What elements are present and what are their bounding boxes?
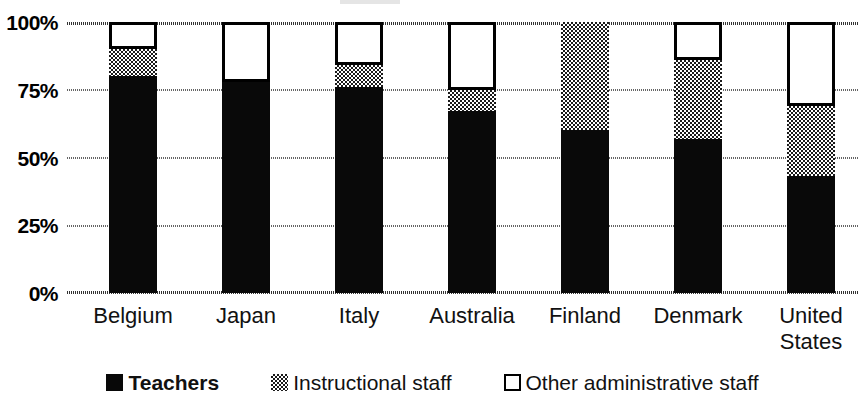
legend-item-other-administrative-staff: Other administrative staff <box>504 372 759 393</box>
legend-label-instructional-staff: Instructional staff <box>293 372 451 393</box>
bar-segment-other-administrative-staff-australia <box>448 22 496 90</box>
x-axis-label-line: Denmark <box>633 303 763 329</box>
bar-group-united-states <box>787 22 835 293</box>
bar-group-belgium <box>109 22 157 293</box>
x-axis-label-japan: Japan <box>181 303 311 329</box>
x-axis-label-finland: Finland <box>520 303 650 329</box>
bar-segment-instructional-staff-united-states <box>787 106 835 176</box>
bar-segment-other-administrative-staff-italy <box>335 22 383 65</box>
y-tick-label-75: 75% <box>17 80 58 101</box>
y-axis: 100% 75% 50% 25% 0% <box>0 0 66 310</box>
bar-segment-other-administrative-staff-denmark <box>674 22 722 60</box>
bar-segment-teachers-belgium <box>109 76 157 293</box>
solid-black-square-icon <box>106 374 123 391</box>
legend-label-teachers: Teachers <box>128 372 219 393</box>
x-axis-label-australia: Australia <box>407 303 537 329</box>
plot-area <box>67 22 858 293</box>
bar-segment-teachers-italy <box>335 87 383 293</box>
bar-group-australia <box>448 22 496 293</box>
bar-segment-other-administrative-staff-united-states <box>787 22 835 106</box>
bar-segment-instructional-staff-italy <box>335 65 383 87</box>
bar-segment-teachers-finland <box>561 130 609 293</box>
y-tick-label-25: 25% <box>17 215 58 236</box>
bars-container <box>67 22 858 293</box>
x-axis-label-belgium: Belgium <box>68 303 198 329</box>
bar-segment-instructional-staff-australia <box>448 90 496 112</box>
bar-segment-teachers-australia <box>448 111 496 293</box>
bar-group-denmark <box>674 22 722 293</box>
x-axis-label-line: Australia <box>407 303 537 329</box>
x-axis: BelgiumJapanItalyAustraliaFinlandDenmark… <box>67 303 858 363</box>
legend-label-other-administrative-staff: Other administrative staff <box>526 372 759 393</box>
scan-artifact <box>340 0 400 4</box>
stacked-bar-chart: 100% 75% 50% 25% 0% BelgiumJapanItalyAus… <box>0 0 865 399</box>
bar-segment-other-administrative-staff-japan <box>222 22 270 82</box>
bar-segment-instructional-staff-belgium <box>109 49 157 76</box>
bar-segment-teachers-japan <box>222 82 270 293</box>
bar-group-japan <box>222 22 270 293</box>
x-axis-label-line: Japan <box>181 303 311 329</box>
bar-segment-teachers-denmark <box>674 139 722 293</box>
bar-group-italy <box>335 22 383 293</box>
x-axis-label-line: Belgium <box>68 303 198 329</box>
y-tick-label-100: 100% <box>6 12 58 33</box>
bar-segment-teachers-united-states <box>787 176 835 293</box>
white-outlined-square-icon <box>504 374 521 391</box>
x-axis-label-line: United <box>746 303 865 329</box>
y-tick-label-0: 0% <box>29 283 58 304</box>
chart-legend: Teachers Instructional staff Other admin… <box>0 366 865 399</box>
x-axis-label-denmark: Denmark <box>633 303 763 329</box>
x-axis-label-line: Italy <box>294 303 424 329</box>
x-axis-label-united-states: UnitedStates <box>746 303 865 355</box>
checkered-gray-square-icon <box>271 374 288 391</box>
bar-segment-instructional-staff-denmark <box>674 60 722 139</box>
y-tick-label-50: 50% <box>17 148 58 169</box>
x-axis-label-italy: Italy <box>294 303 424 329</box>
bar-group-finland <box>561 22 609 293</box>
bar-segment-instructional-staff-finland <box>561 22 609 130</box>
bar-segment-other-administrative-staff-belgium <box>109 22 157 49</box>
legend-item-instructional-staff: Instructional staff <box>271 372 451 393</box>
x-axis-label-line: Finland <box>520 303 650 329</box>
legend-item-teachers: Teachers <box>106 372 219 393</box>
x-axis-label-line: States <box>746 329 865 355</box>
